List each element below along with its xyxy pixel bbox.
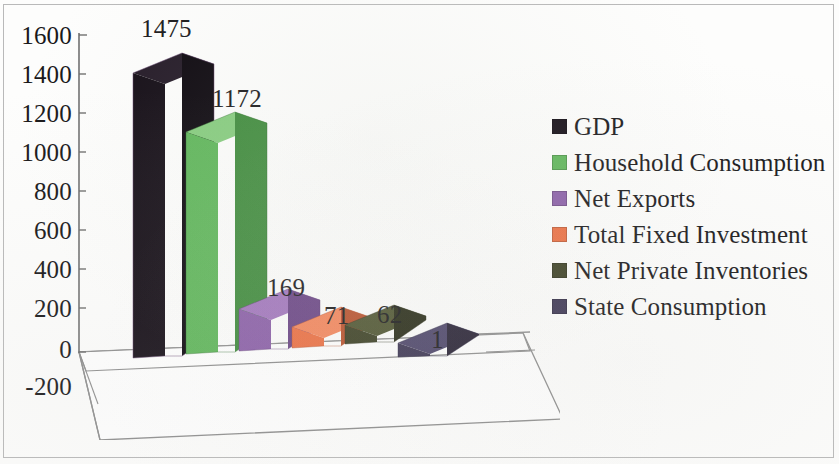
legend-item-label: State Consumption [574,294,767,319]
legend-item-household-consumption[interactable]: Household Consumption [552,144,837,180]
legend-swatch-icon [552,191,567,206]
y-tick-label: 1400 [4,62,72,87]
y-tick-label: 200 [4,296,72,321]
legend-item-label: Net Exports [574,186,695,211]
plot-area: 1600 1400 1200 1000 800 600 400 200 0 -2… [0,0,560,440]
y-axis-tick-labels: 1600 1400 1200 1000 800 600 400 200 0 -2… [0,0,72,440]
legend-item-total-fixed-investment[interactable]: Total Fixed Investment [552,216,837,252]
y-tick-label: 0 [4,337,72,362]
y-tick-label: 1200 [4,101,72,126]
y-tick-label: 1000 [4,140,72,165]
legend-swatch-icon [552,227,567,242]
legend-swatch-icon [552,299,567,314]
y-tick-label: 1600 [4,23,72,48]
legend-item-label: Household Consumption [574,150,825,175]
value-label-total-fixed-investment: 71 [324,303,349,328]
value-label-net-exports: 169 [267,275,305,300]
y-tick-label: 600 [4,218,72,243]
legend-swatch-icon [552,119,567,134]
bar-chart-3d [0,0,560,440]
legend-item-gdp[interactable]: GDP [552,108,837,144]
value-label-household-consumption: 1172 [212,86,262,111]
legend-item-label: GDP [574,114,624,139]
y-tick-label: -200 [4,374,72,399]
legend-swatch-icon [552,155,567,170]
value-label-state-consumption: 1 [431,327,444,352]
value-label-net-private-inventories: 62 [377,302,402,327]
legend-item-label: Net Private Inventories [574,258,808,283]
y-tick-label: 400 [4,257,72,282]
legend-item-label: Total Fixed Investment [574,222,808,247]
legend-item-net-private-inventories[interactable]: Net Private Inventories [552,252,837,288]
legend-swatch-icon [552,263,567,278]
chart-legend: GDP Household Consumption Net Exports To… [552,108,837,324]
legend-item-net-exports[interactable]: Net Exports [552,180,837,216]
legend-item-state-consumption[interactable]: State Consumption [552,288,837,324]
chart-page: 1600 1400 1200 1000 800 600 400 200 0 -2… [0,0,839,464]
y-axis [79,33,87,353]
value-label-gdp: 1475 [141,16,192,41]
y-tick-label: 800 [4,179,72,204]
